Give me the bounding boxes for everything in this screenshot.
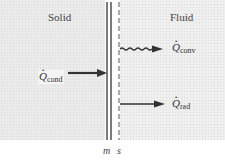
q-symbol: Q <box>172 41 180 53</box>
radiation-arrow-icon <box>120 101 165 108</box>
q-conv-label: Qconv <box>172 41 196 55</box>
boundary-m-label: m <box>103 145 110 156</box>
boundary-m-lines <box>107 2 111 140</box>
fluid-label: Fluid <box>170 11 193 23</box>
q-conv-subscript: conv <box>180 46 196 55</box>
boundary-and-arrows <box>0 0 225 165</box>
boundary-s-label: s <box>117 145 121 156</box>
q-rad-label: Qrad <box>172 97 190 111</box>
q-symbol: Q <box>39 70 47 82</box>
conduction-arrow-icon <box>68 69 107 77</box>
convection-wavy-arrow-icon <box>120 46 163 53</box>
solid-label: Solid <box>48 11 71 23</box>
q-cond-label: Qcond <box>38 70 64 84</box>
q-cond-subscript: cond <box>47 75 63 84</box>
q-rad-subscript: rad <box>180 102 190 111</box>
q-symbol: Q <box>172 97 180 109</box>
